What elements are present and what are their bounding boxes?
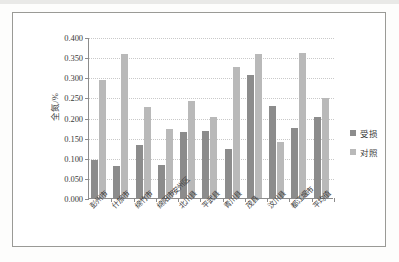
y-axis-label: 全氮/% — [48, 93, 60, 120]
bar-group — [111, 37, 133, 198]
bar-control — [210, 117, 217, 198]
bar-group — [89, 37, 111, 198]
page-top-edge — [0, 0, 399, 4]
bar-damaged — [136, 145, 143, 198]
bar-damaged — [314, 117, 321, 198]
bar-damaged — [269, 106, 276, 198]
legend-label: 受损 — [360, 127, 378, 139]
y-axis-tick-label: 0.300 — [64, 73, 83, 83]
bar-control — [121, 54, 128, 198]
y-axis-tick-label: 0.250 — [64, 93, 83, 103]
chart-legend: 受损对照 — [350, 127, 378, 165]
bar-damaged — [291, 128, 298, 198]
y-axis-tick-label: 0.150 — [64, 134, 83, 144]
legend-swatch-control — [350, 149, 356, 155]
legend-swatch-damaged — [350, 130, 356, 136]
legend-label: 对照 — [360, 146, 378, 158]
bar-group — [289, 37, 311, 198]
y-axis-tick-label: 0.400 — [64, 33, 83, 43]
bar-control — [99, 80, 106, 198]
figure-page: 全氮/% 0.0000.0500.1000.1500.2000.2500.300… — [0, 0, 399, 262]
y-axis-tick-label: 0.200 — [64, 114, 83, 124]
x-axis-tick-mark — [334, 198, 335, 202]
y-axis-tick-label: 0.050 — [64, 174, 83, 184]
plot-area: 0.0000.0500.1000.1500.2000.2500.3000.350… — [88, 38, 333, 199]
bar-group — [156, 37, 178, 198]
figure-frame: 全氮/% 0.0000.0500.1000.1500.2000.2500.300… — [12, 12, 386, 247]
bar-damaged — [247, 75, 254, 198]
bar-control — [322, 98, 329, 198]
bar-group — [312, 37, 334, 198]
bar-group — [200, 37, 222, 198]
bar-damaged — [225, 149, 232, 199]
bar-group — [267, 37, 289, 198]
bar-damaged — [202, 131, 209, 198]
legend-item: 对照 — [350, 146, 378, 158]
bar-group — [245, 37, 267, 198]
y-axis-tick-label: 0.350 — [64, 53, 83, 63]
y-axis-tick-label: 0.100 — [64, 154, 83, 164]
bar-control — [233, 67, 240, 198]
bar-control — [255, 54, 262, 198]
bar-group — [223, 37, 245, 198]
bar-control — [299, 53, 306, 198]
legend-item: 受损 — [350, 127, 378, 139]
bar-control — [144, 107, 151, 198]
y-axis-tick-label: 0.000 — [64, 194, 83, 204]
bar-group — [134, 37, 156, 198]
